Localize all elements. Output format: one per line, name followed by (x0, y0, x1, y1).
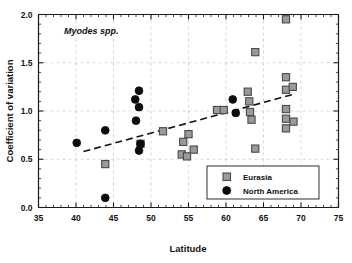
data-point-eurasia (282, 16, 289, 23)
y-axis-title: Coefficient of variation (4, 59, 15, 162)
data-point-eurasia (282, 86, 289, 93)
y-tick-label: 2.0 (21, 10, 33, 20)
data-point-eurasia (213, 106, 220, 113)
panel-annotation: Myodes spp. (64, 26, 119, 36)
y-tick-label: 1.0 (21, 106, 33, 116)
data-point-eurasia (244, 88, 251, 95)
y-tick-labels: 0.00.51.01.52.0 (21, 10, 33, 213)
data-point-eurasia (180, 138, 187, 145)
legend-marker-eurasia (223, 173, 231, 181)
data-point-eurasia (282, 74, 289, 81)
x-tick-label: 50 (146, 213, 156, 223)
x-tick-label: 40 (71, 213, 81, 223)
y-tick-label: 0.5 (21, 154, 33, 164)
x-tick-label: 35 (34, 213, 44, 223)
x-tick-label: 70 (296, 213, 306, 223)
data-point-eurasia (185, 131, 192, 138)
data-point-northamerica (135, 103, 143, 111)
data-point-eurasia (246, 108, 253, 115)
x-tick-label: 45 (109, 213, 119, 223)
data-point-eurasia (252, 49, 259, 56)
data-point-northamerica (101, 126, 109, 134)
data-point-northamerica (137, 140, 145, 148)
legend-label-eurasia: Eurasia (243, 173, 272, 182)
data-point-eurasia (102, 160, 109, 167)
y-tick-label: 0.0 (21, 203, 33, 213)
x-tick-label: 60 (221, 213, 231, 223)
data-point-northamerica (232, 109, 240, 117)
legend-marker-northamerica (223, 187, 231, 195)
data-point-eurasia (282, 125, 289, 132)
data-point-eurasia (183, 153, 190, 160)
data-point-eurasia (190, 146, 197, 153)
x-tick-labels: 354045505560657075 (34, 213, 344, 223)
data-point-eurasia (159, 128, 166, 135)
scatter-plot: 354045505560657075 0.00.51.01.52.0 Latit… (0, 0, 352, 263)
data-point-northamerica (101, 194, 109, 202)
series-eurasia-points (102, 16, 297, 168)
x-axis-title: Latitude (170, 243, 207, 254)
x-tick-label: 75 (334, 213, 344, 223)
x-tick-label: 65 (259, 213, 269, 223)
data-point-northamerica (131, 96, 139, 104)
data-point-northamerica (132, 117, 140, 125)
data-point-eurasia (282, 105, 289, 112)
y-tick-label: 1.5 (21, 58, 33, 68)
data-point-northamerica (73, 139, 81, 147)
legend-label-northamerica: North America (243, 187, 298, 196)
data-point-eurasia (248, 116, 255, 123)
data-point-eurasia (220, 106, 227, 113)
x-tick-label: 55 (184, 213, 194, 223)
data-point-eurasia (246, 98, 253, 105)
data-point-eurasia (290, 118, 297, 125)
data-point-eurasia (282, 115, 289, 122)
data-point-northamerica (135, 87, 143, 95)
data-point-eurasia (289, 83, 296, 90)
data-point-northamerica (229, 96, 237, 104)
legend: Eurasia North America (207, 166, 319, 199)
data-point-eurasia (252, 145, 259, 152)
chart-figure: 354045505560657075 0.00.51.01.52.0 Latit… (0, 0, 352, 263)
trend-line (84, 94, 296, 152)
